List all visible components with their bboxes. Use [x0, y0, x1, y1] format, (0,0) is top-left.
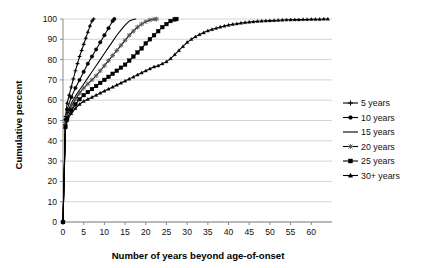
y-tick-label-0: 0 — [52, 217, 57, 227]
y-tick-label-70: 70 — [47, 75, 57, 85]
marker-star — [139, 22, 144, 27]
marker-circle — [78, 78, 82, 82]
legend-marker — [349, 159, 353, 163]
series-point — [81, 86, 86, 91]
series-point — [106, 58, 111, 63]
series-point — [70, 95, 74, 99]
series-point — [102, 63, 107, 68]
series-point — [94, 73, 99, 78]
marker-star — [135, 25, 140, 30]
marker-circle — [107, 26, 111, 30]
marker-circle — [90, 55, 94, 59]
series-point — [148, 18, 153, 23]
marker-square — [90, 87, 94, 91]
marker-star — [73, 97, 78, 102]
series-point — [77, 91, 82, 96]
marker-square — [111, 72, 115, 76]
marker-square — [140, 47, 144, 51]
marker-star — [110, 53, 115, 58]
series-point — [107, 26, 111, 30]
series-point — [143, 19, 148, 24]
marker-star — [143, 19, 148, 24]
marker-star — [131, 29, 136, 34]
series-point — [119, 66, 123, 70]
x-tick-label-60: 60 — [307, 227, 317, 237]
marker-square — [349, 159, 353, 163]
series-point — [144, 42, 148, 46]
x-tick-label-45: 45 — [244, 227, 254, 237]
x-tick-label-30: 30 — [182, 227, 192, 237]
marker-circle — [349, 116, 353, 120]
marker-circle — [103, 33, 107, 37]
x-tick-label-25: 25 — [162, 227, 172, 237]
legend-marker — [349, 116, 353, 120]
marker-square — [152, 33, 156, 37]
series-point — [119, 43, 124, 48]
chart-container: 0102030405060708090100 05101520253035404… — [0, 0, 427, 268]
cumulative-percent-line-chart: 0102030405060708090100 05101520253035404… — [0, 0, 427, 268]
marker-square — [119, 66, 123, 70]
marker-star — [102, 63, 107, 68]
series-point — [98, 41, 102, 45]
series-point — [98, 68, 103, 73]
series-point — [169, 19, 173, 23]
x-tick-label-35: 35 — [203, 227, 213, 237]
series-point — [74, 86, 78, 90]
marker-circle — [70, 95, 74, 99]
series-point — [103, 78, 107, 82]
marker-circle — [113, 17, 117, 21]
series-point — [115, 69, 119, 73]
series-point — [98, 81, 102, 85]
marker-star — [77, 91, 82, 96]
marker-square — [160, 25, 164, 29]
marker-star — [127, 33, 132, 38]
legend-label: 20 years — [361, 142, 395, 152]
legend-label: 30+ years — [361, 171, 400, 181]
marker-circle — [74, 86, 78, 90]
y-tick-label-80: 80 — [47, 55, 57, 65]
y-tick-label-60: 60 — [47, 95, 57, 105]
x-tick-label-0: 0 — [61, 227, 66, 237]
series-point — [94, 48, 98, 52]
marker-star — [154, 17, 159, 22]
series-point — [86, 90, 90, 94]
series-point — [74, 102, 78, 106]
series-point — [113, 17, 117, 21]
series-point — [110, 53, 115, 58]
marker-square — [156, 29, 160, 33]
x-tick-label-40: 40 — [224, 227, 234, 237]
series-point — [123, 63, 127, 67]
series-point — [152, 33, 156, 37]
series-point — [78, 78, 82, 82]
marker-square — [127, 59, 131, 63]
marker-square — [136, 51, 140, 55]
series-point — [140, 47, 144, 51]
y-tick-label-30: 30 — [47, 156, 57, 166]
series-point — [135, 25, 140, 30]
marker-square — [82, 93, 86, 97]
x-tick-label-20: 20 — [141, 227, 151, 237]
series-point — [86, 62, 90, 66]
marker-square — [144, 42, 148, 46]
legend-label: 25 years — [361, 156, 395, 166]
y-tick-label-50: 50 — [47, 116, 57, 126]
marker-star — [348, 144, 353, 149]
series-point — [114, 48, 119, 53]
series-point — [175, 17, 179, 21]
marker-square — [115, 69, 119, 73]
marker-square — [107, 75, 111, 79]
x-tick-label-10: 10 — [100, 227, 110, 237]
series-point — [123, 38, 128, 43]
series-point — [90, 55, 94, 59]
series-point — [90, 87, 94, 91]
marker-square — [78, 97, 82, 101]
y-tick-label-20: 20 — [47, 176, 57, 186]
marker-square — [98, 81, 102, 85]
series-point — [165, 22, 169, 26]
marker-circle — [86, 62, 90, 66]
legend-marker — [348, 144, 353, 149]
series-point — [156, 29, 160, 33]
y-tick-label-40: 40 — [47, 136, 57, 146]
series-point — [78, 97, 82, 101]
legend-label: 15 years — [361, 127, 395, 137]
